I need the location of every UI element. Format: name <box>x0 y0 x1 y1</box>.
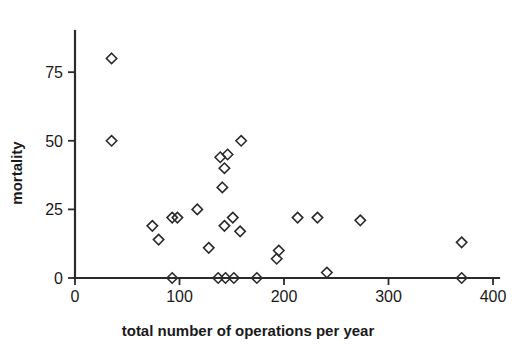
x-tick-label: 400 <box>480 288 507 305</box>
data-point-marker <box>153 234 163 244</box>
data-point-marker <box>204 243 214 253</box>
data-point-marker <box>217 182 227 192</box>
data-point-marker <box>456 237 466 247</box>
data-point-marker <box>236 136 246 146</box>
y-tick-label: 25 <box>45 201 63 218</box>
data-point-marker <box>292 212 302 222</box>
data-point-marker <box>219 221 229 231</box>
data-point-marker <box>312 212 322 222</box>
data-point-marker <box>322 267 332 277</box>
y-tick-label: 75 <box>45 64 63 81</box>
axes-group <box>74 31 499 278</box>
data-point-marker <box>228 212 238 222</box>
data-points-group <box>106 53 466 283</box>
data-point-marker <box>106 53 116 63</box>
data-point-marker <box>219 163 229 173</box>
x-tick-label: 200 <box>271 288 298 305</box>
x-axis-title: total number of operations per year <box>122 322 375 339</box>
data-point-marker <box>147 221 157 231</box>
data-point-marker <box>355 215 365 225</box>
x-tick-label: 0 <box>71 288 80 305</box>
x-tick-label: 100 <box>166 288 193 305</box>
scatter-plot-figure: 01002003004000255075 total number of ope… <box>0 0 525 348</box>
x-tick-label: 300 <box>375 288 402 305</box>
y-tick-label: 50 <box>45 133 63 150</box>
ticks-group: 01002003004000255075 <box>45 64 506 305</box>
plot-canvas: 01002003004000255075 total number of ope… <box>0 0 525 348</box>
data-point-marker <box>106 136 116 146</box>
data-point-marker <box>192 204 202 214</box>
y-axis-title: mortality <box>8 141 25 205</box>
y-tick-label: 0 <box>54 270 63 287</box>
data-point-marker <box>235 226 245 236</box>
